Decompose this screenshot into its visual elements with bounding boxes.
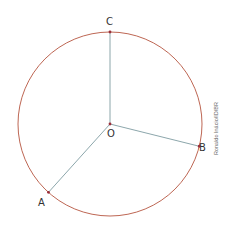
label-a: A [38, 197, 45, 208]
radius-oa [48, 124, 110, 192]
point-o [109, 123, 112, 126]
point-a [47, 191, 50, 194]
image-credit: Ronaldo Inácio/ID/BR [213, 102, 219, 155]
label-b: B [199, 142, 206, 153]
circle-diagram: C O B A Ronaldo Inácio/ID/BR [0, 0, 233, 232]
point-c [109, 31, 112, 34]
label-o: O [107, 128, 115, 139]
label-c: C [106, 16, 113, 27]
radius-ob [110, 124, 199, 146]
